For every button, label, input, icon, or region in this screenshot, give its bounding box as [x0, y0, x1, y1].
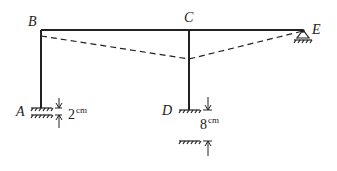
- settlement-a-unit: cm: [76, 105, 87, 115]
- frame-members: [41, 30, 303, 110]
- node-label-a: A: [15, 104, 25, 119]
- node-label-e: E: [311, 22, 321, 37]
- support-e-pin: [294, 30, 312, 43]
- deflected-shape-dashed: [41, 31, 303, 59]
- node-label-c: C: [184, 10, 194, 25]
- settlement-a-value: 2: [68, 107, 75, 122]
- node-label-d: D: [161, 103, 172, 118]
- settlement-d-unit: cm: [208, 115, 219, 125]
- support-d: [179, 110, 201, 144]
- settlement-d-value: 8: [200, 117, 207, 132]
- settlement-a-dimension: [55, 98, 62, 128]
- frame-diagram: B C E A D 2 cm 8 cm: [0, 0, 337, 171]
- node-label-b: B: [28, 14, 37, 29]
- support-a: [31, 108, 53, 118]
